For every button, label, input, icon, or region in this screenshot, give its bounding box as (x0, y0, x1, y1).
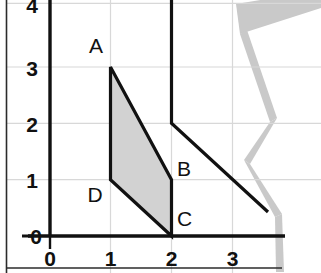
vertex-label-c: C (177, 207, 192, 230)
vertex-label-d: D (87, 183, 102, 206)
x-tick-label-0: 0 (44, 247, 56, 270)
figure-canvas: 4 3 2 1 0 0 1 2 3 A B C D (0, 0, 321, 273)
vertex-label-b: B (177, 157, 191, 180)
vertex-label-a: A (89, 34, 103, 57)
y-tick-label-1: 1 (26, 169, 38, 192)
x-tick-label-2: 2 (166, 247, 178, 270)
y-tick-label-3: 3 (26, 57, 38, 80)
x-tick-label-3: 3 (227, 247, 239, 270)
x-tick-label-1: 1 (105, 247, 117, 270)
y-tick-label-4: 4 (26, 0, 38, 17)
y-tick-label-2: 2 (26, 113, 38, 136)
coordinate-plane-figure: 4 3 2 1 0 0 1 2 3 A B C D (0, 0, 321, 273)
